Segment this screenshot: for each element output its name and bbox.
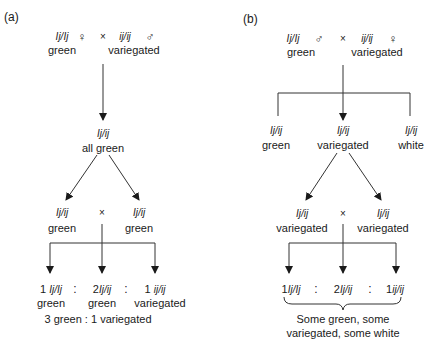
b-parent-right-genotype: ij/ij xyxy=(361,33,373,45)
ratio-separator: : xyxy=(314,283,317,295)
b-cross-symbol: × xyxy=(340,33,346,45)
a-f2-item: 2Ij/ij xyxy=(93,283,111,296)
b-parent-left-genotype: Ij/Ij xyxy=(287,33,300,45)
b-summary-line1: Some green, some xyxy=(297,313,390,325)
a-f1cross-symbol: × xyxy=(99,207,105,219)
b-parent-right-phenotype: variegated xyxy=(351,46,402,58)
b-f1cross-right-genotype: Ij/ij xyxy=(377,208,389,220)
a-f1cross-left-genotype: Ij/ij xyxy=(56,207,68,219)
a-ratio-summary: 3 green : 1 variegated xyxy=(44,313,151,325)
a-parent-right-genotype: ij/ij xyxy=(119,31,131,43)
b-parent-left-phenotype: green xyxy=(287,46,315,58)
a-f1-phenotype: all green xyxy=(82,142,124,154)
a-f1cross-right-genotype: Ij/ij xyxy=(133,207,145,219)
male-symbol-icon: ♂ xyxy=(315,33,324,45)
arrow-b-f1-right xyxy=(349,153,381,200)
arrow-b-f1-left xyxy=(306,153,337,200)
panel-a-label: (a) xyxy=(4,10,19,24)
b-f1-genotype: Ij/ij xyxy=(270,125,282,137)
b-f1-phenotype: green xyxy=(262,139,290,151)
b-f1-genotype: Ij/ij xyxy=(337,125,349,137)
a-parent-left-genotype: Ij/Ij xyxy=(56,31,69,43)
ratio-separator: : xyxy=(73,283,76,295)
b-f1-phenotype: white xyxy=(398,139,424,151)
a-f2-phenotype: variegated xyxy=(134,297,185,309)
arrow-a-f1-left xyxy=(66,155,97,200)
female-symbol-icon: ♀ xyxy=(78,31,87,43)
arrow-a-f1-right xyxy=(109,155,139,200)
a-f1cross-right-phenotype: green xyxy=(125,222,153,234)
a-cross-symbol: × xyxy=(100,31,106,43)
b-f1cross-right-phenotype: variegated xyxy=(357,222,408,234)
a-f1-genotype: Ij/ij xyxy=(97,128,109,140)
b-f2-item: 2Ij/ij xyxy=(334,283,352,296)
a-f2-phenotype: green xyxy=(88,297,116,309)
a-f1cross-left-phenotype: green xyxy=(48,222,76,234)
ratio-separator: : xyxy=(124,283,127,295)
b-f1-genotype: Ij/ij xyxy=(405,125,417,137)
b-f1cross-left-phenotype: variegated xyxy=(276,222,327,234)
b-f2-item: 1Ij/Ij xyxy=(282,283,301,296)
a-f2-phenotype: green xyxy=(37,297,65,309)
b-f1cross-left-genotype: Ij/ij xyxy=(296,208,308,220)
panel-b-label: (b) xyxy=(243,12,258,26)
a-parent-left-phenotype: green xyxy=(48,44,76,56)
b-summary-line2: variegated, some white xyxy=(286,327,399,339)
ratio-separator: : xyxy=(368,283,371,295)
male-symbol-icon: ♂ xyxy=(146,31,155,43)
b-f1-phenotype: variegated xyxy=(317,139,368,151)
a-f2-item: 1 Ij/Ij xyxy=(40,283,62,296)
brace-b xyxy=(284,297,401,310)
female-symbol-icon: ♀ xyxy=(389,33,398,45)
a-f2-item: 1 ij/ij xyxy=(145,283,166,296)
b-f2-item: 1ij/ij xyxy=(386,283,404,296)
b-f1cross-symbol: × xyxy=(340,208,346,220)
a-parent-right-phenotype: variegated xyxy=(108,44,159,56)
